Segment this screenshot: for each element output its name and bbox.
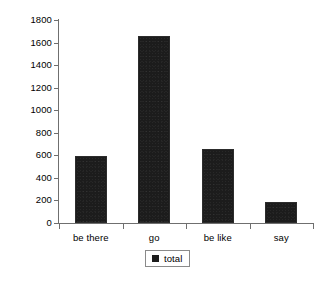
figure-caption <box>0 276 330 284</box>
legend-swatch-total-icon <box>152 255 159 262</box>
x-axis-tick <box>250 224 251 229</box>
y-axis-tick <box>54 178 59 179</box>
y-axis-tick <box>54 155 59 156</box>
legend-label-total: total <box>164 254 182 264</box>
bar-go <box>138 36 170 223</box>
x-axis-tick <box>59 224 60 229</box>
y-axis-tick-label: 1200 <box>2 83 52 93</box>
y-axis-tick-label: 600 <box>2 150 52 160</box>
y-axis-tick-label: 1400 <box>2 60 52 70</box>
y-axis-tick <box>54 110 59 111</box>
x-axis-label-go: go <box>123 232 187 243</box>
bar-say <box>265 202 297 223</box>
y-axis-tick-label: 1600 <box>2 38 52 48</box>
y-axis-tick-label: 0 <box>2 218 52 228</box>
x-axis-label-be-like: be like <box>186 232 250 243</box>
y-axis-tick <box>54 200 59 201</box>
bar-be-like <box>202 149 234 223</box>
y-axis-tick <box>54 20 59 21</box>
y-axis-tick <box>54 133 59 134</box>
y-axis-tick <box>54 65 59 66</box>
bar-chart-figure: 020040060080010001200140016001800 be the… <box>0 0 330 284</box>
y-axis-tick <box>54 88 59 89</box>
x-axis-tick <box>123 224 124 229</box>
y-axis-tick-label: 200 <box>2 195 52 205</box>
x-axis-tick <box>313 224 314 229</box>
x-axis-tick <box>186 224 187 229</box>
y-axis-line <box>58 19 59 224</box>
x-axis-label-say: say <box>250 232 314 243</box>
y-axis-tick-label: 1800 <box>2 15 52 25</box>
bar-be-there <box>75 156 107 223</box>
y-axis-tick-label: 400 <box>2 173 52 183</box>
x-axis-label-be-there: be there <box>59 232 123 243</box>
y-axis-tick-label: 1000 <box>2 105 52 115</box>
chart-legend: total <box>145 250 190 267</box>
y-axis-tick-label: 800 <box>2 128 52 138</box>
y-axis-tick <box>54 43 59 44</box>
